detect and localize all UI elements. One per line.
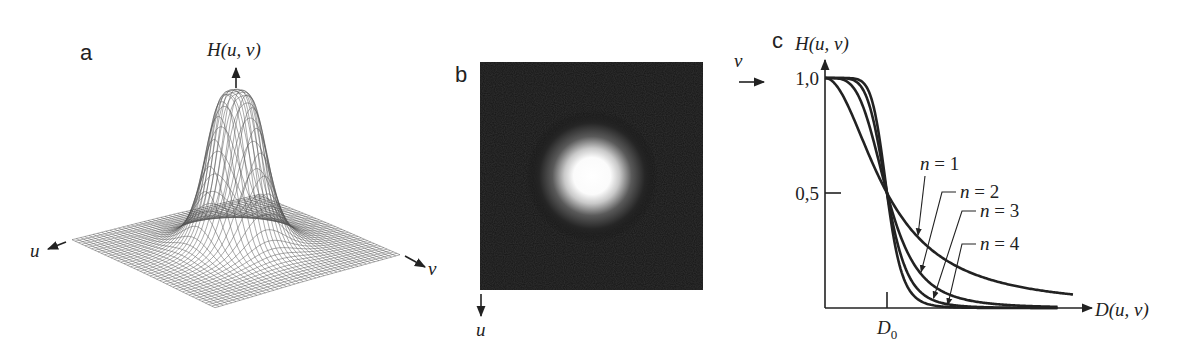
panel-b: b u v [455,50,764,340]
mesh-lines [72,89,400,308]
surface-mesh [72,89,400,308]
annotation-label: n = 3 [980,200,1019,221]
panel-a: a H(u, v) u v [30,39,437,308]
figure: a H(u, v) u v b u v c H(u, v) D(u, v) 1,… [0,0,1184,356]
curve-n1 [825,78,1073,294]
panel-c-label: c [772,28,783,53]
annotation-leader [921,192,956,272]
annotation-leader [918,176,925,235]
filter-image-glow [526,110,658,242]
u-axis-label-b: u [476,319,486,340]
x-axis-label: D(u, v) [1094,299,1149,321]
panel-c: c H(u, v) D(u, v) 1,00,5 D0 n = 1n = 2n … [772,28,1149,342]
annotation-label: n = 4 [980,233,1020,254]
u-axis-label: u [30,240,40,261]
annotation-label: n = 2 [960,181,999,202]
v-axis-label-b: v [734,50,743,71]
y-tick-label: 1,0 [795,68,819,89]
annotation-label: n = 1 [920,153,959,174]
u-axis-arrow [48,242,66,249]
y-tick-label: 0,5 [795,183,819,204]
panel-b-label: b [455,62,467,87]
v-axis-label: v [428,258,437,279]
panel-a-label: a [80,40,93,65]
curve-n2 [825,78,1058,307]
v-axis-arrow [405,256,425,267]
y-axis-label: H(u, v) [794,33,849,55]
h-axis-label: H(u, v) [206,39,261,61]
x-tick-label: D0 [876,317,897,342]
